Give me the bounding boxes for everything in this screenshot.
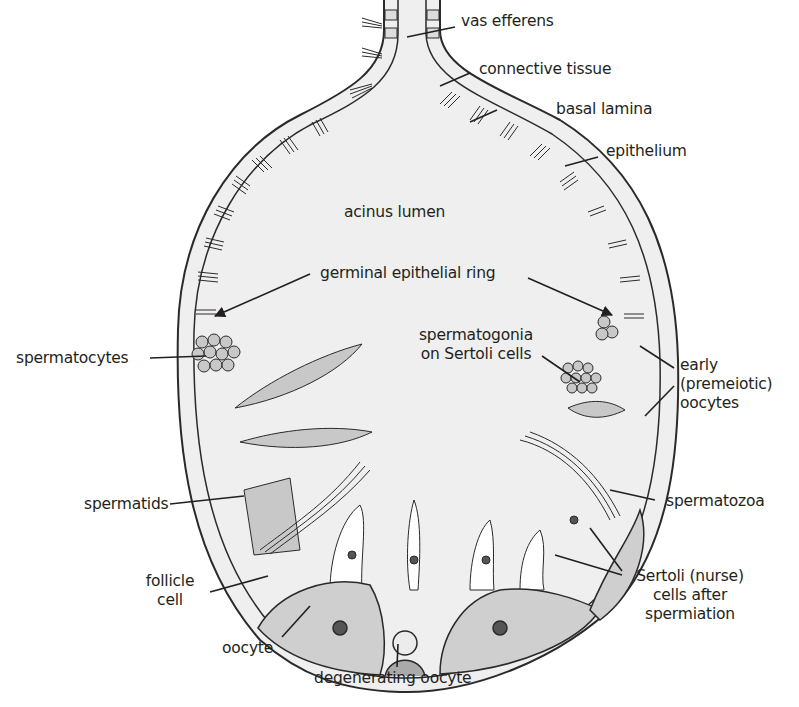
label-connective-tissue: connective tissue bbox=[479, 60, 611, 79]
label-acinus-lumen: acinus lumen bbox=[344, 203, 445, 222]
label-vas-efferens: vas efferens bbox=[461, 12, 554, 31]
label-basal-lamina: basal lamina bbox=[556, 100, 652, 119]
label-early-oocytes-line2: (premeiotic) bbox=[680, 375, 772, 394]
diagram-canvas: vas efferens connective tissue basal lam… bbox=[0, 0, 799, 707]
label-early-oocytes: early (premeiotic) oocytes bbox=[680, 356, 772, 413]
label-sertoli-line3: spermiation bbox=[620, 605, 760, 624]
label-oocyte: oocyte bbox=[222, 639, 273, 658]
label-degenerating-oocyte: degenerating oocyte bbox=[314, 669, 471, 688]
label-spermatogonia-line1: spermatogonia bbox=[406, 326, 546, 345]
label-sertoli-line1: Sertoli (nurse) bbox=[620, 567, 760, 586]
label-spermatids: spermatids bbox=[84, 495, 168, 514]
label-early-oocytes-line3: oocytes bbox=[680, 394, 772, 413]
label-spermatozoa: spermatozoa bbox=[666, 492, 765, 511]
label-spermatocytes: spermatocytes bbox=[16, 349, 129, 368]
label-early-oocytes-line1: early bbox=[680, 356, 772, 375]
label-germinal-epithelial-ring: germinal epithelial ring bbox=[320, 264, 495, 283]
label-follicle-cell-line1: follicle bbox=[140, 572, 200, 591]
label-epithelium: epithelium bbox=[606, 142, 687, 161]
label-spermatogonia: spermatogonia on Sertoli cells bbox=[406, 326, 546, 364]
label-sertoli-line2: cells after bbox=[620, 586, 760, 605]
label-follicle-cell: follicle cell bbox=[140, 572, 200, 610]
label-spermatogonia-line2: on Sertoli cells bbox=[406, 345, 546, 364]
label-follicle-cell-line2: cell bbox=[140, 591, 200, 610]
label-sertoli-cells: Sertoli (nurse) cells after spermiation bbox=[620, 567, 760, 624]
